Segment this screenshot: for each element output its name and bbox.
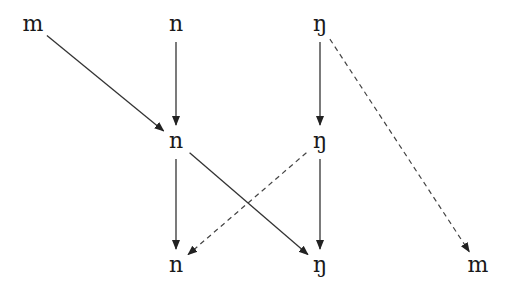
- edge-top-ng-to-bot-m: [330, 39, 469, 252]
- node-top-m: m: [23, 11, 44, 36]
- edge-top-m-to-mid-n: [47, 35, 164, 130]
- phoneme-graph: mnŋnŋnŋm: [0, 0, 505, 291]
- diagram-canvas: mnŋnŋnŋm: [0, 0, 505, 291]
- node-mid-ng: ŋ: [313, 128, 327, 153]
- node-top-ng: ŋ: [313, 11, 327, 36]
- edge-mid-ng-to-bot-n: [188, 153, 306, 255]
- node-bot-ng: ŋ: [313, 252, 327, 277]
- node-top-n: n: [169, 11, 183, 36]
- node-bot-n: n: [169, 252, 183, 277]
- node-bot-m: m: [468, 252, 489, 277]
- edge-mid-n-to-bot-ng: [190, 153, 308, 255]
- node-mid-n: n: [169, 128, 183, 153]
